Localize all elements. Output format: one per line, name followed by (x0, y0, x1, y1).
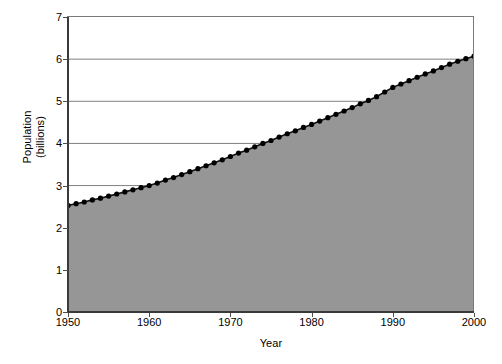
data-point-marker (423, 71, 428, 76)
x-axis-tick-label: 1960 (119, 316, 179, 328)
x-axis-tick-mark (474, 313, 475, 317)
x-axis-tick-mark (68, 313, 69, 317)
y-axis-tick-label: 6 (36, 54, 62, 65)
x-axis-tick-label: 2000 (444, 316, 502, 328)
data-point-marker (317, 118, 322, 123)
data-point-marker (301, 125, 306, 130)
data-point-marker (106, 194, 111, 199)
data-point-marker (285, 131, 290, 136)
y-axis-tick-labels: 01234567 (36, 0, 62, 364)
data-point-marker (90, 197, 95, 202)
data-point-marker (82, 199, 87, 204)
data-point-marker (187, 169, 192, 174)
y-axis-tick-mark (63, 143, 68, 144)
data-point-marker (406, 78, 411, 83)
x-axis-tick-label: 1980 (282, 316, 342, 328)
y-axis-tick-label: 3 (36, 180, 62, 191)
x-axis-title: Year (68, 337, 474, 349)
data-point-marker (212, 160, 217, 165)
data-point-marker (163, 177, 168, 182)
data-point-marker (463, 56, 468, 61)
plot-top-border (67, 16, 474, 17)
x-axis-tick-mark (393, 313, 394, 317)
data-point-marker (138, 185, 143, 190)
data-point-marker (74, 201, 79, 206)
y-axis-tick-label: 2 (36, 222, 62, 233)
data-point-marker (236, 151, 241, 156)
y-axis-tick-label: 7 (36, 12, 62, 23)
area-fill (68, 56, 474, 312)
data-point-marker (447, 62, 452, 67)
y-axis-line (67, 17, 69, 313)
data-point-marker (366, 98, 371, 103)
y-axis-tick-label: 4 (36, 138, 62, 149)
data-point-marker (309, 122, 314, 127)
x-axis-tick-labels: 195019601970198019902000 (0, 316, 502, 332)
x-axis-tick-mark (230, 313, 231, 317)
y-axis-tick-mark (63, 270, 68, 271)
plot-svg (68, 17, 474, 312)
data-point-marker (244, 148, 249, 153)
data-point-marker (374, 94, 379, 99)
data-point-marker (431, 68, 436, 73)
data-point-marker (114, 191, 119, 196)
y-axis-tick-mark (63, 17, 68, 18)
data-point-marker (268, 138, 273, 143)
data-point-marker (398, 81, 403, 86)
data-point-marker (333, 112, 338, 117)
population-area-chart: Population (billions) 01234567 195019601… (0, 0, 502, 364)
data-point-marker (122, 189, 127, 194)
data-point-marker (130, 187, 135, 192)
y-axis-tick-label: 5 (36, 96, 62, 107)
data-point-marker (455, 59, 460, 64)
data-point-marker (325, 115, 330, 120)
data-point-marker (341, 108, 346, 113)
data-point-marker (277, 135, 282, 140)
data-point-marker (228, 154, 233, 159)
y-axis-title-line1: Population (21, 111, 34, 164)
y-axis-tick-mark (63, 59, 68, 60)
y-axis-tick-mark (63, 186, 68, 187)
data-point-marker (390, 85, 395, 90)
data-point-marker (179, 172, 184, 177)
x-axis-line (67, 311, 474, 313)
data-point-marker (155, 180, 160, 185)
data-point-marker (252, 144, 257, 149)
data-point-marker (439, 65, 444, 70)
data-point-marker (203, 163, 208, 168)
plot-area (68, 17, 474, 312)
y-axis-tick-label: 1 (36, 264, 62, 275)
plot-right-border (473, 17, 474, 313)
data-point-marker (98, 196, 103, 201)
data-point-marker (350, 105, 355, 110)
data-point-marker (415, 75, 420, 80)
x-axis-tick-label: 1950 (38, 316, 98, 328)
data-point-marker (382, 89, 387, 94)
x-axis-tick-label: 1990 (363, 316, 423, 328)
x-axis-tick-label: 1970 (200, 316, 260, 328)
y-axis-tick-mark (63, 228, 68, 229)
x-axis-tick-mark (312, 313, 313, 317)
x-axis-tick-mark (149, 313, 150, 317)
data-point-marker (358, 101, 363, 106)
data-point-marker (260, 141, 265, 146)
y-axis-tick-mark (63, 101, 68, 102)
data-point-marker (293, 128, 298, 133)
data-point-marker (195, 166, 200, 171)
data-point-marker (147, 183, 152, 188)
data-point-marker (220, 157, 225, 162)
data-point-marker (171, 175, 176, 180)
